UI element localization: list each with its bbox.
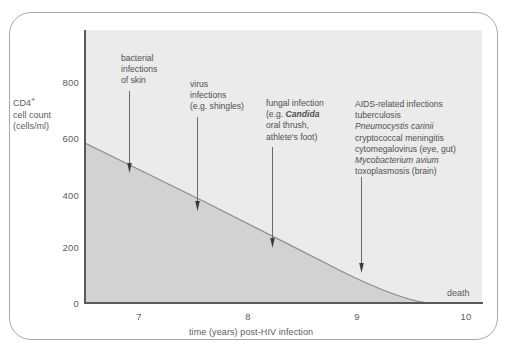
arrow-aids-related-infections: [358, 177, 365, 274]
y-tick-800: 800: [5, 77, 79, 88]
annotation-line: oral thrush,: [266, 120, 324, 131]
annotation-line: (e.g. Candida: [266, 109, 324, 120]
y-tick-0: 0: [5, 298, 79, 309]
y-axis-title-line-1: CD4+: [13, 98, 79, 110]
annotation-line: (e.g. shingles): [190, 101, 244, 112]
y-tick-600: 600: [5, 133, 79, 144]
arrow-virus-infections: [194, 117, 201, 212]
y-tick-200: 200: [5, 242, 79, 253]
x-tick-10: 10: [446, 311, 486, 322]
annotation-line: fungal infection: [266, 98, 324, 109]
annotation-line: Pneumocystis carinii: [355, 121, 456, 132]
annotation-line: tuberculosis: [355, 110, 456, 121]
y-axis-title: CD4+ cell count (cells/ml): [13, 98, 79, 133]
annotation-line: athlete's foot): [266, 132, 324, 143]
chart-plot-area: 800 600 400 200 0 7 8 9 10 CD4+ cell cou…: [0, 0, 510, 351]
x-tick-7: 7: [119, 311, 159, 322]
y-axis-title-line-3: (cells/ml): [13, 121, 79, 133]
annotation-line: cytomegalovirus (eye, gut): [355, 144, 456, 155]
y-tick-400: 400: [5, 190, 79, 201]
arrow-bacterial-infections: [126, 91, 133, 174]
x-tick-8: 8: [228, 311, 268, 322]
annotation-line: Mycobacterium avium: [355, 155, 456, 166]
annotation-line: of skin: [121, 75, 157, 86]
annotation-line: toxoplasmosis (brain): [355, 166, 456, 177]
annotation-line: bacterial: [121, 53, 157, 64]
annotation-line: infections: [121, 64, 157, 75]
annotation-virus-infections: virus infections (e.g. shingles): [190, 79, 244, 113]
annotation-line: virus: [190, 79, 244, 90]
annotation-line: cryptococcal meningitis: [355, 133, 456, 144]
arrow-fungal-infection: [269, 147, 276, 249]
y-axis-ticks: 800 600 400 200 0: [0, 0, 79, 351]
x-axis-line: [84, 302, 483, 304]
annotation-line: AIDS-related infections: [355, 99, 456, 110]
x-tick-9: 9: [337, 311, 377, 322]
y-axis-line: [84, 30, 86, 304]
y-axis-title-line-2: cell count: [13, 110, 79, 122]
annotation-bacterial-infections: bacterial infections of skin: [121, 53, 157, 87]
death-label: death: [447, 288, 470, 298]
x-axis-title: time (years) post-HIV infection: [189, 327, 313, 337]
annotation-fungal-infection: fungal infection (e.g. Candida oral thru…: [266, 98, 324, 143]
annotation-aids-related-infections: AIDS-related infections tuberculosis Pne…: [355, 99, 456, 177]
annotation-line: infections: [190, 90, 244, 101]
